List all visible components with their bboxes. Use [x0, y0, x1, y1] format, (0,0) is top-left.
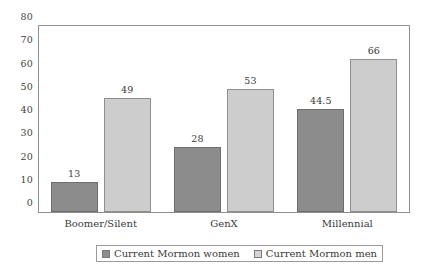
bar-value-label: 53 [227, 76, 274, 86]
y-axis-tick-label: 30 [0, 128, 33, 138]
y-axis-tick-label: 80 [0, 12, 33, 22]
x-axis-label-genx: GenX [162, 217, 285, 230]
y-axis-tick-label: 50 [0, 82, 33, 92]
x-axis-label-millennial: Millennial [286, 217, 409, 230]
bars-layer: 1349285344.566 [39, 26, 409, 212]
bar-value-label: 44.5 [297, 96, 344, 106]
bar-value-label: 49 [104, 85, 151, 95]
x-axis-label-boomer-silent: Boomer/Silent [39, 217, 162, 230]
bar-men [227, 89, 274, 212]
bar-chart: 01020304050607080 1349285344.566 Boomer/… [0, 0, 424, 273]
bar-value-label: 13 [51, 169, 98, 179]
legend-item: Current Mormon men [254, 248, 377, 260]
legend-item: Current Mormon women [102, 248, 240, 260]
bar-group: 44.566 [286, 26, 409, 212]
bar-men [350, 59, 397, 212]
y-axis-tick-label: 60 [0, 59, 33, 69]
y-axis-tick-label: 20 [0, 152, 33, 162]
light-gray-swatch [254, 250, 262, 258]
legend-label: Current Mormon men [266, 248, 377, 260]
bar-group: 2853 [162, 26, 285, 212]
y-axis-tick-label: 10 [0, 175, 33, 185]
bar-men [104, 98, 151, 212]
dark-gray-swatch [102, 250, 110, 258]
y-axis-tick-label: 0 [0, 198, 33, 208]
x-axis-category-labels: Boomer/SilentGenXMillennial [39, 217, 409, 233]
y-axis: 01020304050607080 [0, 25, 33, 213]
legend-label: Current Mormon women [114, 248, 240, 260]
bar-women [174, 147, 221, 212]
bar-value-label: 66 [350, 46, 397, 56]
y-axis-tick-label: 40 [0, 105, 33, 115]
y-axis-tick-label: 70 [0, 35, 33, 45]
chart-legend: Current Mormon womenCurrent Mormon men [96, 245, 383, 262]
bar-group: 1349 [39, 26, 162, 212]
bar-women [297, 109, 344, 212]
bar-value-label: 28 [174, 134, 221, 144]
bar-women [51, 182, 98, 212]
